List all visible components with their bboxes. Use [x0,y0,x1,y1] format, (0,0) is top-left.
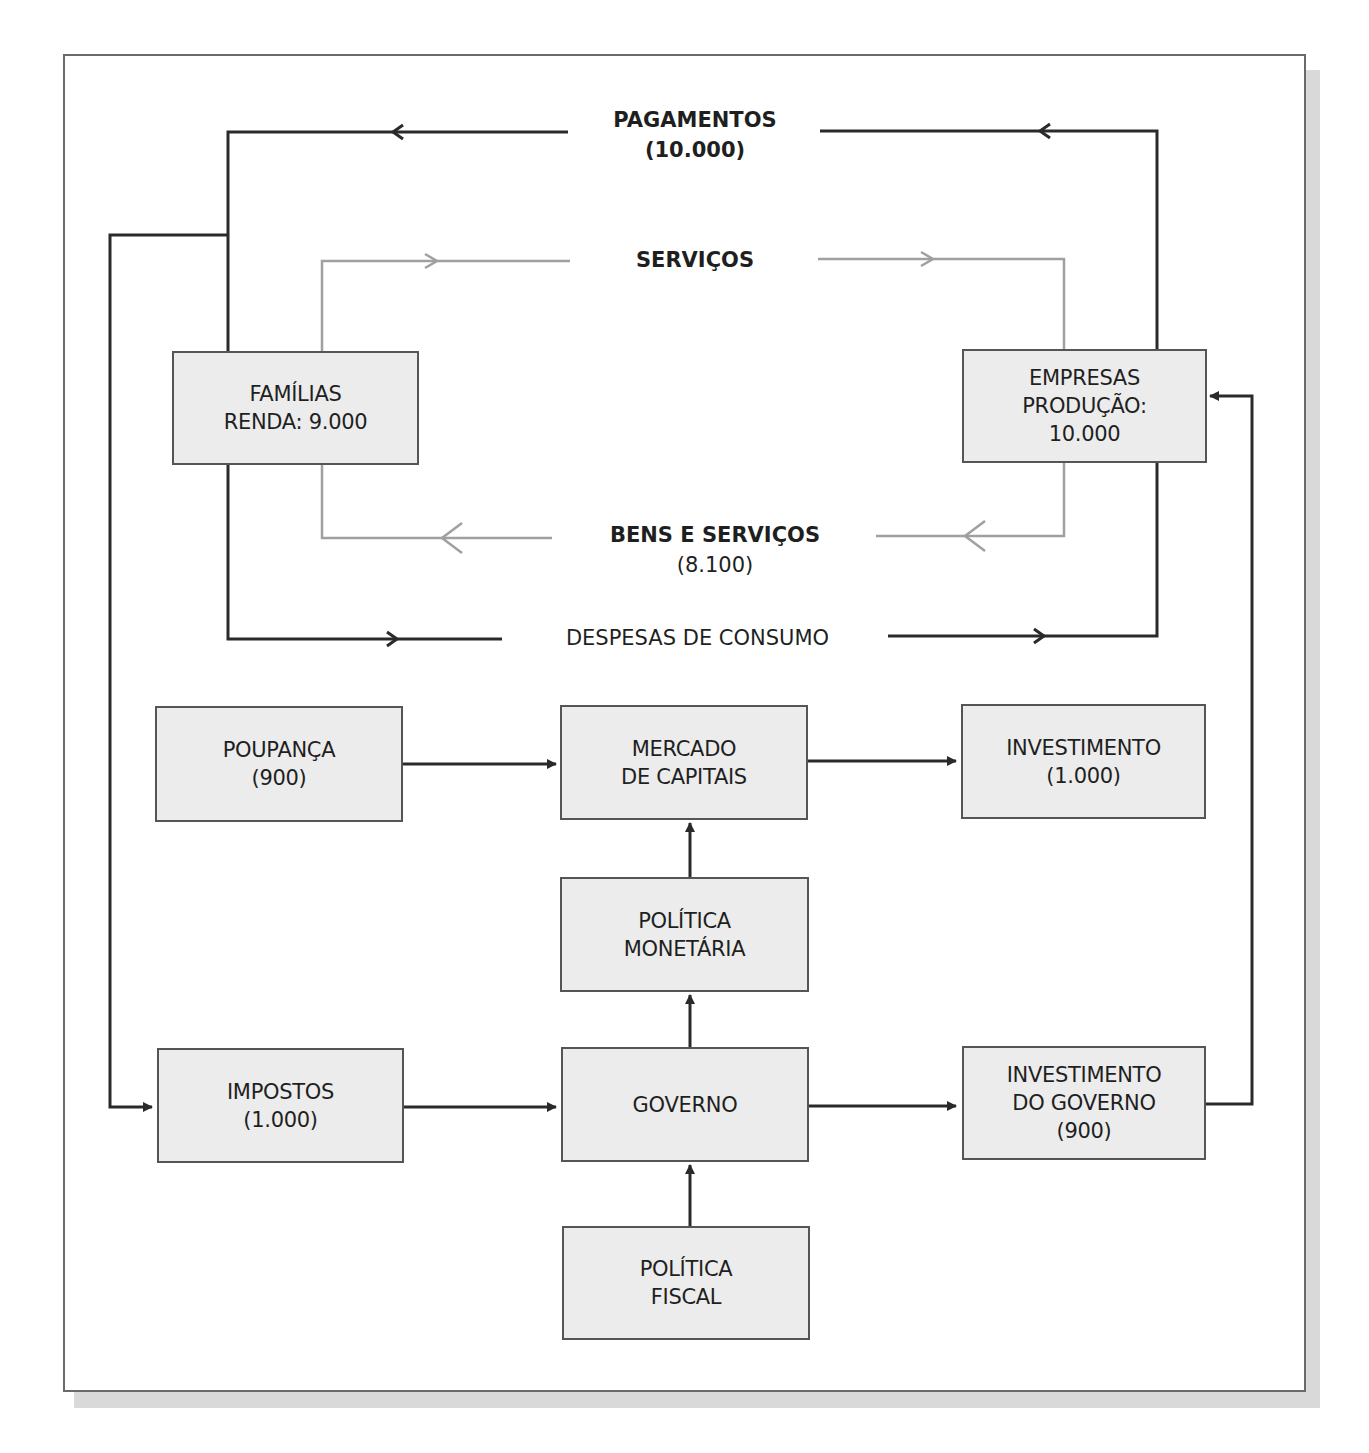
bens-servicos-title: BENS E SERVIÇOS [560,520,870,550]
impostos-value: (1.000) [243,1106,317,1134]
servicos-title: SERVIÇOS [575,245,815,275]
investimento-value: (1.000) [1046,762,1120,790]
despesas-label: DESPESAS DE CONSUMO [510,623,885,653]
pagamentos-value: (10.000) [575,135,815,165]
investimento-title: INVESTIMENTO [1006,734,1161,762]
mercado-line2: DE CAPITAIS [621,763,747,791]
politica-monetaria-box: POLÍTICA MONETÁRIA [560,877,809,992]
familias-title: FAMÍLIAS [249,380,341,408]
politica-fiscal-line2: FISCAL [651,1283,722,1311]
governo-box: GOVERNO [561,1047,809,1162]
politica-monetaria-line1: POLÍTICA [638,907,731,935]
familias-box: FAMÍLIAS RENDA: 9.000 [172,351,419,465]
impostos-box: IMPOSTOS (1.000) [157,1048,404,1163]
servicos-label: SERVIÇOS [575,245,815,275]
investimento-governo-box: INVESTIMENTO DO GOVERNO (900) [962,1046,1206,1160]
bens-servicos-label: BENS E SERVIÇOS (8.100) [560,520,870,580]
familias-renda: RENDA: 9.000 [224,408,368,436]
empresas-box: EMPRESAS PRODUÇÃO: 10.000 [962,349,1207,463]
empresas-producao-label: PRODUÇÃO: [1022,392,1147,420]
pagamentos-title: PAGAMENTOS [575,105,815,135]
mercado-box: MERCADO DE CAPITAIS [560,705,808,820]
bens-servicos-value: (8.100) [560,550,870,580]
poupanca-value: (900) [252,764,307,792]
investimento-box: INVESTIMENTO (1.000) [961,704,1206,819]
mercado-line1: MERCADO [632,735,737,763]
politica-fiscal-box: POLÍTICA FISCAL [562,1226,810,1340]
impostos-title: IMPOSTOS [227,1078,334,1106]
politica-fiscal-line1: POLÍTICA [640,1255,733,1283]
governo-title: GOVERNO [633,1091,738,1119]
investimento-governo-value: (900) [1057,1117,1112,1145]
despesas-title: DESPESAS DE CONSUMO [510,623,885,653]
politica-monetaria-line2: MONETÁRIA [624,935,746,963]
empresas-producao-value: 10.000 [1049,420,1121,448]
poupanca-title: POUPANÇA [223,736,336,764]
pagamentos-label: PAGAMENTOS (10.000) [575,105,815,165]
empresas-title: EMPRESAS [1029,364,1140,392]
poupanca-box: POUPANÇA (900) [155,706,403,822]
invgov-empresas-arrow [1206,396,1252,1104]
investimento-governo-line1: INVESTIMENTO [1007,1061,1162,1089]
investimento-governo-line2: DO GOVERNO [1012,1089,1155,1117]
